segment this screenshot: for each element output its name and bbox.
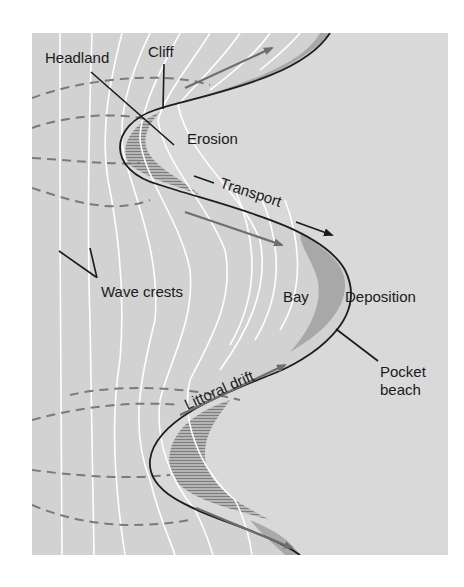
erosion-label: Erosion [187,131,238,146]
wave-crests-label: Wave crests [101,284,183,299]
cliff-label: Cliff [148,44,174,59]
cliff-leader [163,64,164,109]
pocket-beach-label-line1: Pocket [380,363,426,381]
pocket-beach-label: Pocket beach [380,363,426,399]
headland-label: Headland [45,50,109,65]
deposition-label: Deposition [345,289,416,304]
diagram-canvas: Headland Cliff Erosion Transport Wave cr… [0,0,464,587]
pocket-beach-label-line2: beach [380,381,426,399]
bay-label: Bay [283,289,309,304]
